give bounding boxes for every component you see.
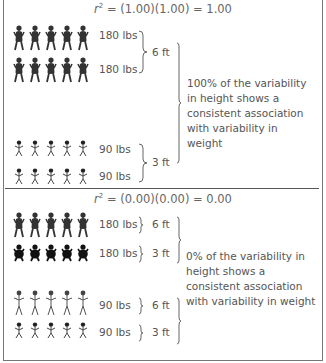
heavy-short-figure-icon [77, 244, 89, 262]
heavy-tall-figure-icon [29, 25, 41, 51]
light-tall-figure-icon [77, 290, 89, 316]
light-short-figure-icon [29, 168, 41, 185]
panel-2-row-4 [13, 322, 95, 350]
heavy-tall-figure-icon [77, 57, 89, 83]
light-short-figure-icon [29, 322, 41, 339]
heavy-tall-figure-icon [61, 57, 73, 83]
light-short-figure-icon [13, 322, 25, 339]
light-short-figure-icon [45, 168, 57, 185]
brace-icon [138, 30, 148, 74]
panel-2-row-1 [13, 212, 95, 240]
heavy-tall-figure-icon [77, 25, 89, 51]
heavy-tall-figure-icon [77, 212, 89, 238]
panel-1-row-3 [13, 140, 95, 168]
light-short-figure-icon [77, 168, 89, 185]
heavy-short-figure-icon [45, 244, 57, 262]
height-label: 6 ft [152, 299, 170, 311]
light-short-figure-icon [13, 140, 25, 157]
light-short-figure-icon [13, 168, 25, 185]
light-tall-figure-icon [61, 290, 73, 316]
light-tall-figure-icon [45, 290, 57, 316]
brace-icon [138, 143, 148, 183]
heavy-short-figure-icon [13, 244, 25, 262]
brace-icon [138, 216, 144, 234]
heavy-tall-figure-icon [61, 25, 73, 51]
weight-label: 90 lbs [99, 326, 131, 338]
heavy-tall-figure-icon [29, 212, 41, 238]
brace-icon [138, 324, 144, 342]
bracket-icon [176, 42, 184, 164]
panel-2-row-2 [13, 244, 95, 272]
light-tall-figure-icon [13, 290, 25, 316]
panel-1-formula: r2 = (1.00)(1.00) = 1.00 [0, 2, 326, 16]
heavy-tall-figure-icon [13, 212, 25, 238]
panel-1-row-2 [13, 57, 95, 85]
heavy-tall-figure-icon [29, 57, 41, 83]
panel-2-row-3 [13, 290, 95, 318]
height-label: 6 ft [152, 46, 170, 58]
light-short-figure-icon [61, 168, 73, 185]
bracket-icon [176, 297, 184, 345]
weight-label: 180 lbs [99, 218, 137, 230]
light-short-figure-icon [61, 140, 73, 157]
panel-1-row-1 [13, 25, 95, 53]
height-label: 3 ft [152, 247, 170, 259]
heavy-short-figure-icon [29, 244, 41, 262]
height-label: 3 ft [152, 156, 170, 168]
heavy-tall-figure-icon [45, 25, 57, 51]
brace-icon [138, 297, 144, 315]
light-short-figure-icon [77, 322, 89, 339]
heavy-short-figure-icon [61, 244, 73, 262]
heavy-tall-figure-icon [45, 212, 57, 238]
weight-label: 90 lbs [99, 170, 131, 182]
panel-2-description: 0% of the variability in height shows a … [186, 249, 320, 309]
height-label: 6 ft [152, 218, 170, 230]
light-short-figure-icon [77, 140, 89, 157]
weight-label: 90 lbs [99, 143, 131, 155]
heavy-tall-figure-icon [45, 57, 57, 83]
weight-label: 180 lbs [99, 29, 137, 41]
height-label: 3 ft [152, 326, 170, 338]
heavy-tall-figure-icon [13, 25, 25, 51]
light-short-figure-icon [45, 140, 57, 157]
weight-label: 180 lbs [99, 63, 137, 75]
panel-2-formula: r2 = (0.00)(0.00) = 0.00 [0, 192, 326, 206]
weight-label: 180 lbs [99, 247, 137, 259]
light-short-figure-icon [29, 140, 41, 157]
light-tall-figure-icon [29, 290, 41, 316]
heavy-tall-figure-icon [61, 212, 73, 238]
heavy-tall-figure-icon [13, 57, 25, 83]
panel-1-description: 100% of the variability in height shows … [187, 76, 315, 151]
formula-text: = (0.00)(0.00) = 0.00 [103, 192, 232, 206]
light-short-figure-icon [45, 322, 57, 339]
bracket-icon [176, 216, 184, 264]
light-short-figure-icon [61, 322, 73, 339]
formula-text: = (1.00)(1.00) = 1.00 [103, 2, 232, 16]
weight-label: 90 lbs [99, 299, 131, 311]
brace-icon [138, 245, 144, 263]
